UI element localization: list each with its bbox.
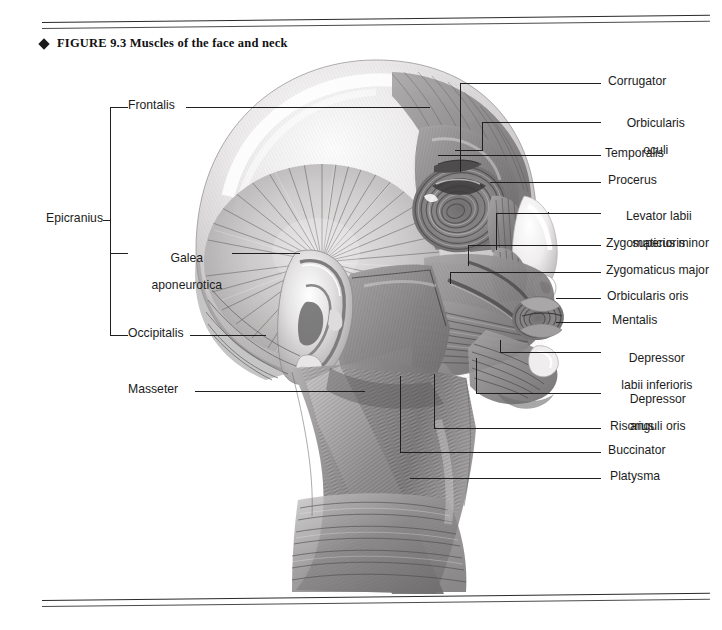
neck-muscles bbox=[280, 355, 500, 605]
label-buccinator: Buccinator bbox=[608, 444, 666, 458]
label-zygomaticus-major: Zygomaticus major bbox=[606, 264, 709, 278]
label-galea-line1: Galea bbox=[171, 251, 204, 265]
figure-page: FIGURE 9.3 Muscles of the face and neck bbox=[0, 0, 722, 630]
label-mentalis: Mentalis bbox=[612, 314, 657, 328]
label-risorius: Risorius bbox=[610, 420, 654, 434]
label-frontalis: Frontalis bbox=[128, 99, 175, 113]
label-galea-line2: aponeurotica bbox=[152, 278, 222, 292]
label-depressor-anguli-oris: Depressor anguli oris bbox=[590, 379, 712, 447]
label-levator-labii-superioris: Levator labii superioris bbox=[596, 196, 708, 264]
label-temporalis: Temporalis bbox=[605, 147, 664, 161]
label-platysma: Platysma bbox=[610, 470, 660, 484]
label-depressor-anguli-line1: Depressor bbox=[630, 392, 686, 406]
label-occipitalis: Occipitalis bbox=[128, 327, 184, 341]
label-galea-aponeurotica: Galea aponeurotica bbox=[128, 238, 232, 306]
label-depressor-labii-line1: Depressor bbox=[629, 351, 685, 365]
label-levator-labii-line1: Levator labii bbox=[626, 209, 692, 223]
label-orbicularis-oris: Orbicularis oris bbox=[607, 290, 688, 304]
label-corrugator: Corrugator bbox=[608, 75, 666, 89]
label-zygomaticus-minor: Zygomaticus minor bbox=[606, 237, 709, 251]
label-orbicularis-oculi-line1: Orbicularis bbox=[627, 116, 685, 130]
bottom-rule-group bbox=[0, 598, 722, 618]
label-masseter: Masseter bbox=[128, 383, 178, 397]
bottom-rule-lower bbox=[42, 599, 710, 607]
label-epicranius: Epicranius bbox=[0, 212, 103, 226]
label-procerus: Procerus bbox=[608, 174, 657, 188]
